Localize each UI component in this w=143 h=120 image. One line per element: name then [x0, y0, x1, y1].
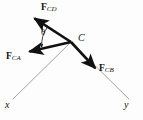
label-force-cd: FCD	[41, 3, 56, 13]
label-point-c: C	[78, 33, 85, 43]
figure-canvas	[0, 0, 143, 120]
vector-fcd	[35, 18, 72, 42]
label-force-cb: FCB	[99, 64, 114, 74]
vector-fca	[30, 42, 72, 52]
label-force-ca: FCA	[6, 52, 21, 62]
label-axis-y: y	[124, 100, 128, 110]
label-force-ca-subscript: CA	[12, 54, 21, 62]
x-axis-line	[13, 42, 71, 99]
label-angle-theta: θ	[41, 28, 45, 37]
force-diagram-figure: FCD FCA FCB C x y θ	[0, 0, 143, 120]
vector-fcb	[71, 42, 95, 68]
label-force-cd-subscript: CD	[47, 5, 57, 13]
label-axis-x: x	[5, 100, 9, 110]
label-force-cb-subscript: CB	[105, 66, 114, 74]
